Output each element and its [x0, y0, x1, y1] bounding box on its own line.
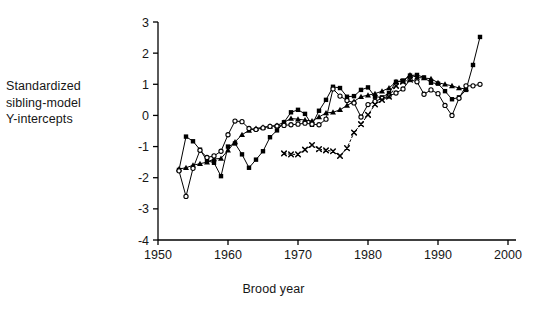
series-stock-3	[177, 78, 482, 199]
data-point-marker	[317, 123, 321, 127]
y-tick-label: -3	[138, 202, 149, 216]
data-point-marker	[324, 98, 328, 102]
x-tick-label: 1960	[214, 248, 242, 262]
y-tick-label: 2	[142, 47, 149, 61]
y-axis-title-line-1: Standardized	[6, 78, 134, 95]
data-point-marker	[261, 126, 265, 130]
data-point-marker	[345, 98, 349, 102]
axes-group	[158, 22, 516, 240]
x-tick-label: 1950	[144, 248, 172, 262]
data-point-marker	[247, 166, 251, 170]
data-point-marker	[184, 194, 188, 198]
data-point-marker	[177, 169, 181, 173]
y-tick-label: 0	[142, 109, 149, 123]
data-point-marker	[268, 124, 272, 128]
y-tick-label: -1	[138, 140, 149, 154]
data-point-marker	[457, 96, 461, 100]
x-axis-title: Brood year	[0, 282, 547, 296]
data-point-marker	[345, 146, 350, 151]
data-point-marker	[205, 155, 209, 159]
data-point-marker	[240, 152, 244, 156]
x-tick-label: 1980	[354, 248, 382, 262]
chart-figure: Standardized sibling-model Y-intercepts …	[0, 0, 547, 313]
data-point-marker	[239, 132, 245, 137]
data-point-marker	[282, 123, 286, 127]
data-point-marker	[296, 152, 301, 157]
data-point-marker	[337, 107, 343, 112]
x-axis-ticks: 195019601970198019902000	[144, 240, 522, 262]
data-point-marker	[296, 108, 300, 112]
data-point-marker	[415, 80, 419, 84]
data-point-marker	[450, 97, 454, 101]
data-point-marker	[331, 87, 335, 91]
data-point-marker	[226, 133, 230, 137]
data-point-marker	[261, 149, 265, 153]
data-point-marker	[338, 94, 342, 98]
data-point-marker	[254, 157, 258, 161]
data-point-marker	[303, 147, 308, 152]
data-point-marker	[184, 134, 188, 138]
data-point-marker	[422, 92, 426, 96]
data-point-marker	[450, 113, 454, 117]
data-point-marker	[310, 143, 315, 148]
data-point-marker	[338, 154, 343, 159]
data-point-marker	[191, 166, 195, 170]
x-tick-label: 2000	[494, 248, 522, 262]
data-point-marker	[359, 115, 363, 119]
data-point-marker	[303, 112, 307, 116]
x-tick-label: 1990	[424, 248, 452, 262]
y-tick-label: -4	[138, 234, 149, 248]
data-point-marker	[366, 85, 370, 89]
data-point-marker	[443, 89, 447, 93]
data-point-marker	[288, 116, 294, 121]
data-point-marker	[394, 84, 399, 89]
data-point-marker	[296, 122, 300, 126]
data-point-marker	[198, 148, 202, 152]
data-point-marker	[352, 94, 356, 98]
data-point-marker	[352, 130, 357, 135]
data-point-marker	[310, 122, 314, 126]
data-point-marker	[338, 86, 342, 90]
data-point-marker	[443, 103, 447, 107]
data-point-marker	[471, 63, 475, 67]
data-point-marker	[478, 35, 482, 39]
data-point-marker	[352, 101, 356, 105]
data-point-marker	[324, 117, 328, 121]
data-point-marker	[331, 149, 336, 154]
data-point-marker	[289, 123, 293, 127]
y-axis-title-line-2: sibling-model	[6, 95, 134, 112]
series-stock-4	[282, 77, 413, 158]
data-point-marker	[379, 88, 385, 93]
data-point-marker	[366, 102, 370, 106]
data-point-marker	[219, 174, 223, 178]
data-point-marker	[212, 154, 216, 158]
y-tick-label: 3	[142, 16, 149, 30]
data-point-marker	[359, 122, 364, 127]
data-point-marker	[394, 91, 398, 95]
y-tick-label: 1	[142, 78, 149, 92]
data-point-marker	[478, 82, 482, 86]
y-axis-title: Standardized sibling-model Y-intercepts	[6, 78, 134, 128]
data-point-marker	[366, 113, 371, 118]
data-point-marker	[436, 92, 440, 96]
data-point-marker	[429, 88, 433, 92]
data-point-marker	[401, 87, 405, 91]
data-point-marker	[344, 102, 350, 107]
plot-area: 3210-1-2-3-4195019601970198019902000	[0, 0, 547, 313]
data-point-marker	[275, 128, 279, 132]
data-point-marker	[219, 149, 223, 153]
data-point-marker	[240, 120, 244, 124]
y-axis-ticks: 3210-1-2-3-4	[138, 16, 158, 248]
data-point-marker	[464, 84, 468, 88]
data-point-marker	[303, 121, 307, 125]
data-point-marker	[254, 127, 258, 131]
data-point-marker	[289, 110, 293, 114]
data-point-marker	[471, 84, 475, 88]
series-line	[179, 80, 480, 197]
y-axis-title-line-3: Y-intercepts	[6, 111, 134, 128]
y-tick-label: -2	[138, 171, 149, 185]
data-point-marker	[317, 109, 321, 113]
data-point-marker	[191, 139, 195, 143]
data-point-marker	[247, 126, 251, 130]
data-point-marker	[359, 88, 363, 92]
